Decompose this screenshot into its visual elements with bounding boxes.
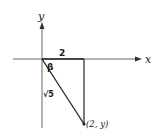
y-axis-label: y [37, 10, 45, 23]
y-axis-arrow-icon [40, 22, 45, 29]
hypotenuse-label: √5 [43, 90, 54, 99]
coordinate-diagram: y x 2 β √5 (2, y) [0, 0, 158, 139]
x-axis-label: x [145, 53, 152, 66]
y-axis [40, 22, 45, 128]
angle-beta-label: β [47, 62, 54, 72]
vertex-coordinate-label: (2, y) [86, 119, 108, 129]
x-axis-arrow-icon [135, 57, 142, 62]
diagram-canvas: y x 2 β √5 (2, y) [0, 0, 158, 139]
side-length-label: 2 [59, 48, 65, 58]
